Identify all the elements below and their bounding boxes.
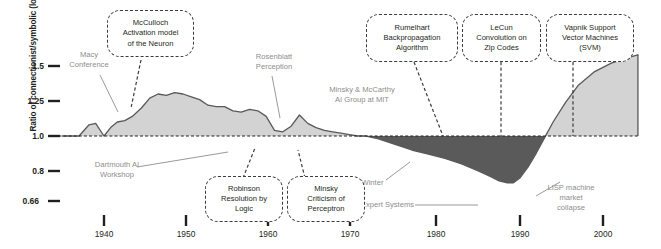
- annotation-dartmouth-workshop: Dartmouth AI Workshop: [80, 160, 154, 180]
- robinson-line-2: Resolution by: [221, 194, 267, 204]
- mit-line-1: Minsky & McCarthy: [300, 85, 424, 95]
- callout-robinson-resolution-by-logic: Robinson Resolution by Logic: [205, 176, 283, 222]
- callout-lecun-convolution-zip-codes: LeCun Convolution on Zip Codes: [462, 14, 541, 62]
- lecun-line-2: Convolution on: [476, 33, 527, 43]
- leader-mcculloch: [131, 60, 141, 108]
- leader-robinson: [243, 148, 255, 178]
- leader-minsky: [298, 150, 305, 178]
- rumelhart-line-2: Backpropagation: [384, 33, 441, 43]
- y-tick-label-0-66: 0.66: [9, 196, 39, 206]
- dartmouth-line-1: Dartmouth AI: [80, 160, 154, 170]
- x-tick-label-1970: 1970: [330, 229, 370, 239]
- lecun-line-3: Zip Codes: [476, 43, 527, 53]
- ai-history-chart: Ratio of connectionist/symbolic (log) 1.…: [0, 0, 661, 249]
- mcculloch-line-3: of the Neuron: [123, 39, 179, 49]
- leader-macy: [100, 75, 118, 112]
- annotation-minsky-mccarthy-mit: Minsky & McCarthy AI Group at MIT: [300, 85, 424, 105]
- leader-rosenblatt: [272, 76, 280, 118]
- x-tick-label-1950: 1950: [166, 229, 206, 239]
- lisp-line-1: LISP machine: [535, 183, 607, 193]
- x-tick-label-1940: 1940: [84, 229, 124, 239]
- minsky-crit-line-3: Perceptron: [307, 204, 345, 214]
- rumelhart-line-3: Algorithm: [384, 43, 441, 53]
- x-tick-label-1960: 1960: [248, 229, 288, 239]
- robinson-line-1: Robinson: [221, 184, 267, 194]
- minsky-crit-line-1: Minsky: [307, 184, 345, 194]
- lecun-line-1: LeCun: [476, 23, 527, 33]
- y-tick-marks: [48, 66, 60, 201]
- y-tick-label-1-25: 1.25: [14, 96, 44, 106]
- y-tick-label-1-5: 1.5: [14, 61, 44, 71]
- vapnik-line-2: Vector Machines: [562, 33, 618, 43]
- mcculloch-line-1: McCulloch: [123, 18, 179, 28]
- robinson-line-3: Logic: [221, 204, 267, 214]
- annotation-lisp-machine-collapse: LISP machine market collapse: [535, 183, 607, 213]
- x-tick-label-2000: 2000: [583, 229, 623, 239]
- rosenblatt-line-1: Rosenblatt: [238, 52, 310, 62]
- rumelhart-line-1: Rumelhart: [384, 23, 441, 33]
- lisp-line-3: collapse: [535, 203, 607, 213]
- dartmouth-line-2: Workshop: [80, 170, 154, 180]
- mcculloch-line-2: Activation model: [123, 28, 179, 38]
- callout-minsky-criticism-of-perceptron: Minsky Criticism of Perceptron: [287, 176, 365, 222]
- y-tick-label-0-8: 0.8: [14, 166, 44, 176]
- minsky-crit-line-2: Criticism of: [307, 194, 345, 204]
- callout-vapnik-support-vector-machines: Vapnik Support Vector Machines (SVM): [546, 14, 634, 62]
- callout-rumelhart-backpropagation: Rumelhart Backpropagation Algorithm: [366, 14, 458, 62]
- callout-mcculloch-activation-model: McCulloch Activation model of the Neuron: [107, 10, 194, 57]
- vapnik-line-3: (SVM): [562, 43, 618, 53]
- macy-line-2: Conference: [58, 60, 120, 70]
- vapnik-line-1: Vapnik Support: [562, 23, 618, 33]
- x-tick-label-1990: 1990: [500, 229, 540, 239]
- rosenblatt-line-2: Perception: [238, 62, 310, 72]
- x-tick-label-1980: 1980: [416, 229, 456, 239]
- lisp-line-2: market: [535, 193, 607, 203]
- y-tick-label-1-0: 1.0: [14, 131, 44, 141]
- annotation-rosenblatt-perception: Rosenblatt Perception: [238, 52, 310, 72]
- mit-line-2: AI Group at MIT: [300, 95, 424, 105]
